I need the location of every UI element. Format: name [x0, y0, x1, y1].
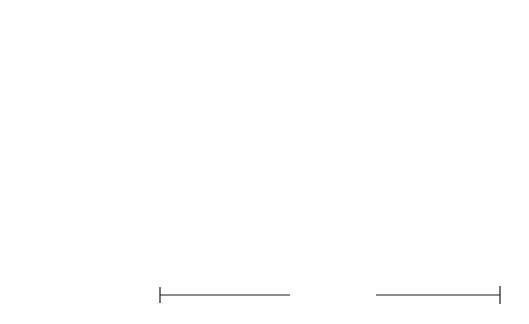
pitch-diagram — [0, 0, 529, 324]
